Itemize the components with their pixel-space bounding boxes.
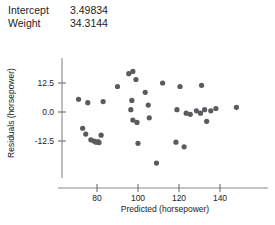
y-axis: 12.50.0-12.5 xyxy=(35,58,66,178)
data-point xyxy=(128,107,133,112)
data-point xyxy=(177,84,182,89)
scatter-plot: 12.50.0-12.5 80100120140 Predicted (hors… xyxy=(0,0,275,225)
data-point xyxy=(115,84,120,89)
data-point xyxy=(83,131,88,136)
data-point xyxy=(213,106,218,111)
data-point xyxy=(147,115,152,120)
data-point xyxy=(76,97,81,102)
x-tick-label: 140 xyxy=(213,193,227,203)
residual-plot-figure: Intercept 3.49834 Weight 34.3144 12.50.0… xyxy=(0,0,275,225)
data-point xyxy=(133,77,138,82)
data-point xyxy=(174,107,179,112)
y-tick-label: -12.5 xyxy=(35,136,55,146)
data-point xyxy=(80,126,85,131)
data-point xyxy=(99,133,104,138)
data-point xyxy=(160,80,165,85)
data-point xyxy=(101,99,106,104)
data-point xyxy=(154,160,159,165)
x-axis: 80100120140 xyxy=(58,184,268,203)
data-point xyxy=(182,144,187,149)
y-tick-label: 12.5 xyxy=(37,78,54,88)
data-point xyxy=(202,107,207,112)
data-point xyxy=(143,90,148,95)
x-tick-label: 120 xyxy=(172,193,186,203)
data-point xyxy=(198,111,203,116)
data-point xyxy=(199,83,204,88)
data-point xyxy=(134,120,139,125)
data-point xyxy=(173,140,178,145)
data-point xyxy=(130,69,135,74)
y-tick-label: 0.0 xyxy=(42,107,54,117)
data-point xyxy=(146,102,151,107)
data-point xyxy=(96,140,101,145)
x-tick-label: 80 xyxy=(92,193,102,203)
data-points xyxy=(76,69,239,166)
data-point xyxy=(135,141,140,146)
x-axis-label: Predicted (horsepower) xyxy=(121,204,210,214)
data-point xyxy=(188,112,193,117)
data-point xyxy=(204,119,209,124)
y-axis-label: Residuals (horsepower) xyxy=(6,68,16,158)
data-point xyxy=(208,108,213,113)
data-point xyxy=(129,98,134,103)
data-point xyxy=(234,105,239,110)
data-point xyxy=(85,100,90,105)
x-tick-label: 100 xyxy=(131,193,145,203)
